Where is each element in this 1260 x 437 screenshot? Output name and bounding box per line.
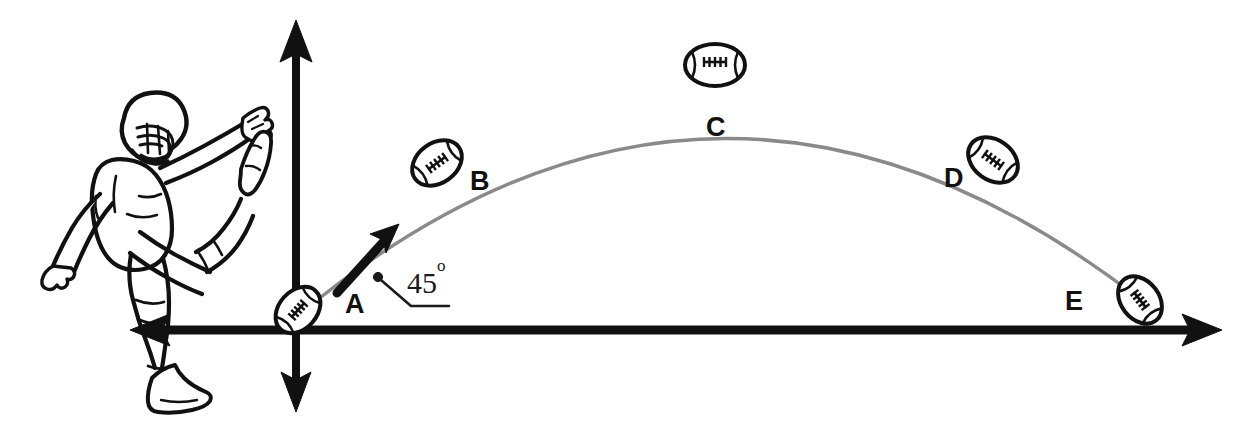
degree-symbol: o	[437, 256, 446, 275]
coordinate-axes	[130, 20, 1222, 412]
point-label-c: C	[706, 114, 726, 141]
football-c	[685, 44, 745, 86]
launch-angle-value: 45	[407, 266, 437, 299]
football-e	[1109, 268, 1171, 332]
figure-canvas: A B C D E 45o	[0, 0, 1260, 437]
point-label-a: A	[345, 291, 365, 318]
football-b	[403, 131, 470, 195]
diagram-svg	[0, 0, 1260, 437]
initial-velocity-arrow	[337, 224, 399, 293]
launch-angle-label: 45o	[407, 268, 446, 298]
point-label-e: E	[1065, 288, 1083, 315]
football-player-kicking	[42, 93, 273, 413]
football-d	[959, 128, 1026, 192]
point-label-d: D	[944, 165, 964, 192]
point-label-b: B	[470, 168, 490, 195]
